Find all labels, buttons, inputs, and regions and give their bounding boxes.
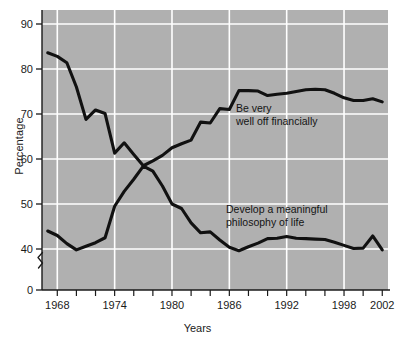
plot-background bbox=[42, 10, 388, 290]
x-axis-ticks: 1968197419801986199219982002 bbox=[45, 290, 394, 311]
x-tick-label: 1986 bbox=[217, 299, 241, 311]
y-tick-label: 90 bbox=[21, 18, 33, 30]
x-tick-label: 1998 bbox=[332, 299, 356, 311]
x-tick-label: 2002 bbox=[370, 299, 394, 311]
annotation-philosophy-line2: philosophy of life bbox=[226, 216, 304, 228]
line-chart: 0405060708090 19681974198019861992199820… bbox=[0, 0, 395, 341]
x-tick-label: 1992 bbox=[274, 299, 298, 311]
y-tick-label: 80 bbox=[21, 63, 33, 75]
x-tick-label: 1968 bbox=[45, 299, 69, 311]
y-tick-label: 0 bbox=[27, 284, 33, 296]
annotation-philosophy-line1: Develop a meaningful bbox=[226, 203, 328, 215]
y-tick-label: 40 bbox=[21, 243, 33, 255]
chart-container: 0405060708090 19681974198019861992199820… bbox=[0, 0, 395, 341]
annotation-be-well-off-line1: Be very bbox=[236, 102, 272, 114]
x-axis-title: Years bbox=[0, 322, 395, 334]
y-tick-label: 50 bbox=[21, 198, 33, 210]
x-tick-label: 1980 bbox=[160, 299, 184, 311]
annotation-be-well-off-line2: well off financially bbox=[235, 115, 318, 127]
x-tick-label: 1974 bbox=[102, 299, 126, 311]
y-axis-title: Percentage bbox=[13, 101, 25, 191]
